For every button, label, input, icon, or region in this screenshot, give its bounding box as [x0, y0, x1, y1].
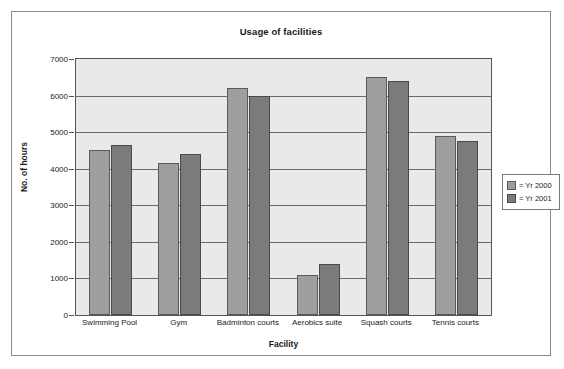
legend-label: = Yr 2000 — [519, 181, 552, 190]
bar-group — [435, 59, 478, 315]
gridline — [76, 278, 491, 279]
bar — [319, 264, 340, 315]
y-tick-label: 7000 — [50, 55, 68, 64]
y-axis-tick-labels: 70006000500040003000200010000 — [32, 58, 68, 314]
y-tick-mark — [69, 169, 74, 170]
y-tick-label: 3000 — [50, 201, 68, 210]
legend-swatch-icon — [507, 194, 516, 203]
chart-legend: = Yr 2000= Yr 2001 — [502, 174, 560, 210]
y-tick-mark — [69, 132, 74, 133]
y-tick-mark — [69, 278, 74, 279]
gridline — [76, 96, 491, 97]
bar — [249, 96, 270, 315]
legend-label: = Yr 2001 — [519, 194, 552, 203]
y-tick-mark — [69, 315, 74, 316]
bar — [111, 145, 132, 315]
y-tick-label: 4000 — [50, 164, 68, 173]
bar — [297, 275, 318, 315]
gridline — [76, 169, 491, 170]
bar-group — [89, 59, 132, 315]
bar — [435, 136, 456, 315]
bar — [89, 150, 110, 315]
bar — [180, 154, 201, 315]
x-tick-label: Tennis courts — [410, 318, 500, 327]
y-tick-label: 1000 — [50, 274, 68, 283]
chart-frame: Usage of facilities 70006000500040003000… — [11, 11, 551, 356]
gridline — [76, 242, 491, 243]
bar-group — [366, 59, 409, 315]
bar — [388, 81, 409, 315]
y-tick-mark — [69, 96, 74, 97]
legend-swatch-icon — [507, 181, 516, 190]
bar-group — [297, 59, 340, 315]
y-tick-mark — [69, 242, 74, 243]
bar — [227, 88, 248, 315]
plot-area — [75, 58, 492, 316]
gridline — [76, 205, 491, 206]
y-tick-mark — [69, 205, 74, 206]
bar — [457, 141, 478, 315]
y-tick-label: 2000 — [50, 237, 68, 246]
bar — [158, 163, 179, 315]
x-axis-tick-labels: Swimming PoolGymBadminton courtsAerobics… — [75, 318, 492, 334]
bar — [366, 77, 387, 315]
bar-group — [158, 59, 201, 315]
chart-title: Usage of facilities — [12, 26, 550, 37]
x-axis-title: Facility — [75, 339, 492, 349]
y-tick-mark — [69, 59, 74, 60]
y-tick-label: 5000 — [50, 128, 68, 137]
y-tick-label: 6000 — [50, 91, 68, 100]
y-axis-title: No. of hours — [19, 132, 29, 202]
bar-group — [227, 59, 270, 315]
legend-item: = Yr 2001 — [507, 192, 555, 205]
legend-item: = Yr 2000 — [507, 179, 555, 192]
gridline — [76, 132, 491, 133]
